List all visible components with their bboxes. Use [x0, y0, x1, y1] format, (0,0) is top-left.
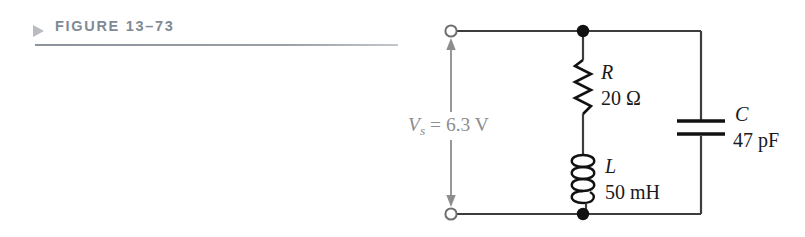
caption-divider — [35, 44, 398, 46]
resistor-value: 20 Ω — [601, 87, 641, 109]
resistor-symbol — [575, 60, 591, 114]
inductor-symbol — [572, 155, 595, 203]
capacitor-value: 47 pF — [733, 129, 779, 152]
figure-caption: FIGURE 13–73 — [33, 18, 398, 52]
circuit-diagram: Vs = 6.3 V R 20 Ω L 50 mH C 47 pF — [405, 0, 805, 237]
bottom-junction-node — [577, 208, 589, 220]
top-junction-node — [577, 25, 589, 37]
top-terminal — [445, 25, 456, 36]
bottom-terminal — [445, 208, 456, 219]
source-arrow-down-head — [446, 195, 455, 207]
triangle-right-icon — [33, 25, 44, 37]
capacitor-designator: C — [735, 103, 749, 125]
circuit-wires — [456, 31, 701, 214]
inductor-designator: L — [604, 155, 616, 177]
resistor-designator: R — [600, 61, 613, 83]
inductor-value: 50 mH — [605, 181, 660, 203]
capacitor-symbol — [677, 121, 725, 134]
source-arrow-up-head — [446, 38, 455, 50]
figure-label: FIGURE 13–73 — [55, 18, 175, 34]
source-voltage-label: Vs = 6.3 V — [408, 114, 489, 138]
